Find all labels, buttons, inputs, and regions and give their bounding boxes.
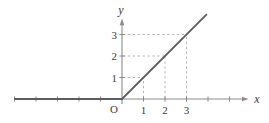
y-axis-arrow (120, 19, 125, 26)
x-axis-label: x (253, 92, 260, 106)
x-tick-label-2: 2 (162, 104, 168, 116)
y-axis-label: y (117, 3, 124, 17)
y-tick-label-1: 1 (112, 72, 118, 84)
function-plot: y x O 1 2 3 1 2 3 (0, 0, 269, 123)
x-axis-arrow (242, 97, 249, 102)
x-tick-label-3: 3 (184, 104, 190, 116)
y-tick-label-3: 3 (112, 29, 118, 41)
y-tick-label-2: 2 (112, 50, 118, 62)
function-graph-figure: y x O 1 2 3 1 2 3 (0, 0, 269, 123)
origin-label: O (110, 103, 118, 115)
x-tick-label-1: 1 (141, 104, 147, 116)
